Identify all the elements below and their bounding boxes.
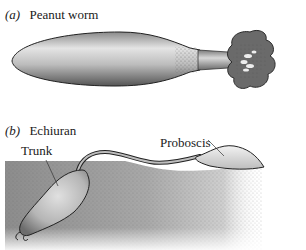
panel-a-title: Peanut worm: [29, 7, 98, 22]
tentacle-crown: [228, 30, 276, 88]
panel-a-letter: (a): [5, 7, 20, 22]
peanut-worm-illustration: [12, 30, 275, 88]
proboscis-annotation: Proboscis: [160, 136, 211, 150]
panel-a-label: (a) Peanut worm: [5, 8, 98, 22]
panel-b-letter: (b): [5, 123, 20, 138]
panel-b-title: Echiuran: [29, 123, 76, 138]
trunk-annotation: Trunk: [21, 144, 52, 158]
panel-b-label: (b) Echiuran: [5, 124, 76, 138]
